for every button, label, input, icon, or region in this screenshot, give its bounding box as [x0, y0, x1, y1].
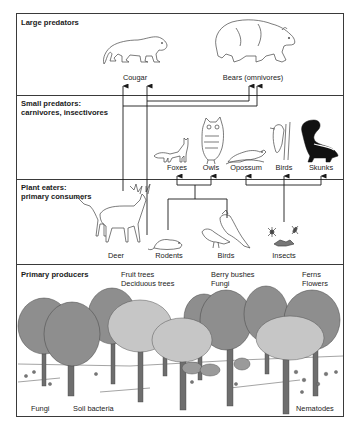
label-line: Ferns — [302, 270, 328, 279]
label-soil-bacteria: Soil bacteria — [73, 404, 114, 413]
label-insects: Insects — [272, 251, 295, 260]
label-deer: Deer — [108, 251, 124, 260]
bear-icon — [216, 20, 295, 62]
label-bears: Bears (omnivores) — [223, 73, 283, 82]
label-nematodes: Nematodes — [296, 404, 334, 413]
label-line: Fungi — [211, 279, 255, 288]
bird-icon — [202, 210, 250, 248]
label-line: Flowers — [302, 279, 328, 288]
label-soil-fungi: Fungi — [31, 404, 50, 413]
forest-illustration — [18, 286, 343, 414]
deer-icon — [76, 184, 150, 242]
label-producers-trees: Fruit trees Deciduous trees — [121, 270, 174, 288]
label-opossum: Opossum — [230, 163, 262, 172]
label-line: Berry bushes — [211, 270, 255, 279]
cougar-icon — [103, 37, 167, 64]
label-producers-ferns: Ferns Flowers — [302, 270, 328, 288]
owl-icon — [202, 117, 224, 164]
insects-icon — [268, 226, 298, 246]
fox-icon — [154, 138, 188, 162]
label-birds-plant-eaters: Birds — [218, 251, 235, 260]
label-foxes: Foxes — [167, 163, 187, 172]
label-birds-insectivores: Birds — [276, 163, 293, 172]
label-cougar: Cougar — [123, 73, 147, 82]
food-web-illustration — [0, 0, 357, 432]
label-rodents: Rodents — [155, 251, 183, 260]
label-producers-bushes: Berry bushes Fungi — [211, 270, 255, 288]
label-line: Deciduous trees — [121, 279, 174, 288]
label-skunks: Skunks — [309, 163, 333, 172]
food-web-arrows — [123, 86, 321, 235]
label-line: Fruit trees — [121, 270, 174, 279]
skunk-icon — [302, 120, 338, 162]
woodpecker-icon — [270, 122, 290, 160]
label-owls: Owls — [203, 163, 219, 172]
rodent-icon — [148, 239, 182, 249]
opossum-icon — [226, 150, 266, 164]
